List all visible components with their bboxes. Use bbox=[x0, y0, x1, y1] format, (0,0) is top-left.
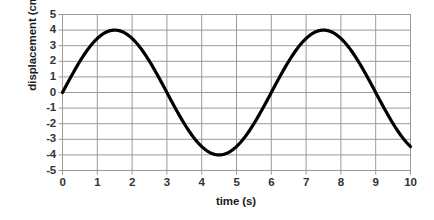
plot-area bbox=[0, 0, 434, 220]
sine-wave-chart: displacement (cm) 543210-1-2-3-4-5 01234… bbox=[0, 0, 434, 220]
axis-tick-marks bbox=[59, 15, 411, 175]
